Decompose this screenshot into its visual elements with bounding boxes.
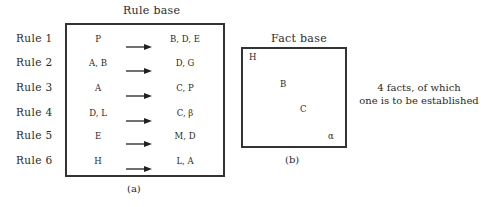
right-arrow-icon [126, 110, 152, 118]
rule-conclusion: D, G [160, 58, 210, 68]
rule-conclusion: C, β [160, 108, 210, 118]
rule-label: Rule 3 [16, 81, 60, 93]
rule-conclusion: L, A [160, 156, 210, 166]
rule-label: Rule 6 [16, 154, 60, 166]
fact-c: C [300, 104, 307, 114]
rule-premise: P [78, 34, 118, 44]
right-arrow-icon [126, 158, 152, 166]
fact-base-title: Fact base [271, 32, 327, 45]
rule-conclusion: B, D, E [160, 34, 210, 44]
right-arrow-icon [126, 36, 152, 44]
rule-label: Rule 2 [16, 56, 60, 68]
rule-base-title: Rule base [123, 4, 180, 17]
rule-conclusion: C, P [160, 83, 210, 93]
right-arrow-icon [126, 60, 152, 68]
fact-alpha: α [328, 131, 334, 141]
right-arrow-icon [126, 85, 152, 93]
fact-base-caption: (b) [285, 154, 299, 165]
right-arrow-icon [126, 133, 152, 141]
rule-base-caption: (a) [127, 183, 141, 194]
rule-premise: A [78, 83, 118, 93]
note-line-1: 4 facts, of which [349, 81, 481, 94]
note-line-2: one is to be established [349, 94, 481, 107]
rule-label: Rule 1 [16, 32, 60, 44]
fact-b: B [280, 79, 286, 89]
rule-premise: H [78, 156, 118, 166]
rule-label: Rule 5 [16, 129, 60, 141]
rule-premise: A, B [78, 58, 118, 68]
fact-base-note: 4 facts, of which one is to be establish… [349, 81, 481, 107]
rule-premise: E [78, 131, 118, 141]
rule-premise: D, L [78, 108, 118, 118]
rule-conclusion: M, D [160, 131, 210, 141]
rule-label: Rule 4 [16, 106, 60, 118]
fact-h: H [249, 52, 256, 62]
